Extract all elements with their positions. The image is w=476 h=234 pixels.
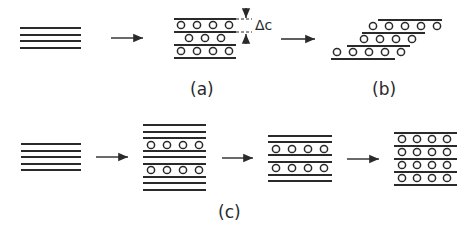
guest-molecule [272, 164, 279, 171]
guest-molecule [401, 22, 408, 29]
guest-molecule [376, 35, 383, 42]
guest-molecule [443, 148, 450, 155]
guest-molecule [225, 21, 232, 28]
guest-molecule [288, 164, 295, 171]
intercalation-diagram: Δc (a) (b) [0, 0, 476, 234]
stage-3-stack [143, 125, 206, 190]
guest-molecule [201, 34, 208, 41]
guest-molecule [288, 145, 295, 152]
guest-molecule [163, 141, 170, 148]
guest-molecule [209, 47, 216, 54]
guest-molecule [385, 22, 392, 29]
delta-c-annotation: Δc [255, 17, 272, 33]
guest-molecule [408, 35, 415, 42]
panel-b-label: (b) [372, 79, 396, 99]
panel-a-stack: Δc [174, 8, 272, 58]
guest-molecule [428, 135, 435, 142]
guest-molecule [177, 21, 184, 28]
guest-molecule [398, 161, 405, 168]
guest-molecule [304, 145, 311, 152]
guest-molecule [398, 135, 405, 142]
panel-b-stack [331, 20, 442, 59]
pristine-stack-top [20, 28, 81, 48]
guest-molecule [195, 166, 202, 173]
guest-molecule [369, 22, 376, 29]
guest-molecule [398, 174, 405, 181]
guest-molecule [193, 21, 200, 28]
guest-molecule [413, 174, 420, 181]
guest-molecule [397, 48, 404, 55]
guest-molecule [185, 34, 192, 41]
guest-molecule [333, 48, 340, 55]
guest-molecule [320, 164, 327, 171]
guest-molecule [193, 47, 200, 54]
guest-molecule [304, 164, 311, 171]
guest-molecule [392, 35, 399, 42]
guest-molecule [349, 48, 356, 55]
pristine-stack-bottom [21, 144, 81, 170]
guest-molecule [360, 35, 367, 42]
guest-molecule [417, 22, 424, 29]
guest-molecule [443, 161, 450, 168]
guest-molecule [428, 174, 435, 181]
guest-molecule [177, 47, 184, 54]
guest-molecule [365, 48, 372, 55]
stage-1-stack [394, 133, 457, 185]
guest-molecule [217, 34, 224, 41]
guest-molecule [443, 135, 450, 142]
guest-molecule [413, 135, 420, 142]
guest-molecule [272, 145, 279, 152]
guest-molecule [413, 161, 420, 168]
guest-molecule [179, 141, 186, 148]
guest-molecule [443, 174, 450, 181]
panel-a-label: (a) [190, 79, 214, 99]
guest-molecule [398, 148, 405, 155]
guest-molecule [320, 145, 327, 152]
guest-molecule [225, 47, 232, 54]
guest-molecule [209, 21, 216, 28]
guest-molecule [428, 148, 435, 155]
guest-molecule [147, 141, 154, 148]
guest-molecule [433, 22, 440, 29]
stage-2-stack [268, 136, 332, 181]
guest-molecule [413, 148, 420, 155]
guest-molecule [147, 166, 154, 173]
guest-molecule [179, 166, 186, 173]
guest-molecule [428, 161, 435, 168]
guest-molecule [163, 166, 170, 173]
guest-molecule [381, 48, 388, 55]
guest-molecule [195, 141, 202, 148]
panel-c-label: (c) [218, 202, 241, 222]
